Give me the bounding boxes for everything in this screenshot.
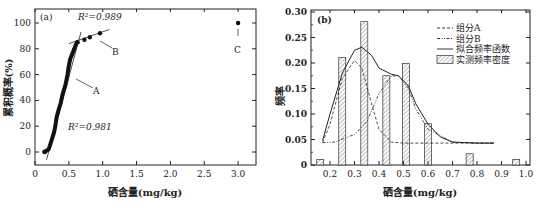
- data-point: [236, 21, 240, 25]
- data-point: [75, 40, 79, 44]
- legend-swatch-hatch: [437, 56, 453, 64]
- plot-frame-a: [35, 9, 256, 165]
- legend-label: 拟合频率函数: [456, 43, 510, 54]
- x-tick-label: 0.7: [445, 169, 460, 179]
- y-tick-label: 0.20: [285, 58, 307, 68]
- y-tick-label: 0.30: [285, 7, 307, 17]
- x-tick-label: 1.0: [96, 169, 111, 179]
- series-a-trace: [44, 42, 76, 152]
- data-point: [82, 38, 86, 42]
- x-tick-label: 0.9: [494, 169, 509, 179]
- x-tick-label: 3.0: [231, 169, 246, 179]
- axis-ticks-a: 00.51.01.52.02.53.0020406080100: [14, 9, 256, 179]
- panel-label-a: (a): [40, 12, 52, 22]
- figure-svg: 00.51.01.52.02.53.0020406080100 R²=0.989…: [0, 0, 542, 203]
- histogram-bar: [383, 76, 390, 165]
- x-tick-label: 0.5: [396, 169, 411, 179]
- data-point: [88, 35, 92, 39]
- annotations-a: R²=0.989R²=0.981ABC: [67, 12, 241, 132]
- legend-label: 组分A: [456, 22, 481, 33]
- x-axis-label-a: 硒含量(mg/kg): [108, 186, 183, 198]
- r2-label-b: R²=0.989: [77, 12, 122, 22]
- histogram-bar: [317, 159, 324, 165]
- x-tick-label: 0.6: [421, 169, 436, 179]
- y-tick-label: 40: [20, 95, 32, 105]
- y-tick-label: 0.05: [285, 135, 307, 145]
- r2-label-a: R²=0.981: [67, 122, 112, 132]
- y-tick-label: 20: [20, 121, 32, 131]
- histogram-bar: [402, 64, 409, 165]
- histogram-bar: [513, 159, 520, 165]
- x-tick-label: 0.4: [372, 169, 387, 179]
- fit-lines-a: [47, 29, 110, 159]
- data-points-a: [42, 21, 240, 154]
- panel-label-b: (b): [317, 15, 332, 25]
- label-a: A: [92, 86, 100, 96]
- histogram-bar: [425, 124, 432, 165]
- x-tick-label: 0: [32, 169, 38, 179]
- y-axis-label-b: 频率: [274, 86, 286, 106]
- y-tick-label: 100: [14, 18, 31, 28]
- arrow-a: [76, 79, 93, 88]
- panel-b: 0.20.30.40.50.60.70.80.91.000.050.100.15…: [274, 7, 533, 198]
- x-tick-label: 0.3: [347, 169, 362, 179]
- y-tick-label: 0: [25, 147, 31, 157]
- figure: 00.51.01.52.02.53.0020406080100 R²=0.989…: [0, 0, 542, 203]
- label-c: C: [234, 45, 241, 55]
- legend-b: 组分A组分B拟合频率函数实测频率密度: [437, 22, 510, 65]
- x-tick-label: 0.2: [323, 169, 337, 179]
- x-axis-label-b: 硒含量(mg/kg): [383, 186, 458, 198]
- y-tick-label: 60: [20, 70, 32, 80]
- arrow-b: [100, 41, 112, 48]
- y-tick-label: 80: [20, 44, 32, 54]
- data-point: [42, 150, 46, 154]
- x-tick-label: 0.8: [470, 169, 485, 179]
- histogram-bar: [466, 154, 473, 165]
- y-axis-label-a: 累积概率(%): [2, 59, 14, 118]
- x-tick-label: 1.5: [129, 169, 144, 179]
- panel-a: 00.51.01.52.02.53.0020406080100 R²=0.989…: [2, 9, 256, 198]
- y-tick-label: 0.15: [285, 84, 307, 94]
- x-tick-label: 2.5: [197, 169, 212, 179]
- legend-label: 组分B: [456, 33, 481, 44]
- y-tick-label: 0.10: [285, 109, 307, 119]
- x-tick-label: 1.0: [519, 169, 534, 179]
- x-tick-label: 0.5: [62, 169, 77, 179]
- x-tick-label: 2.0: [163, 169, 178, 179]
- histogram-bar: [361, 22, 368, 165]
- label-b: B: [112, 47, 119, 57]
- data-point: [98, 31, 102, 35]
- legend-label: 实测频率密度: [456, 54, 510, 65]
- y-tick-label: 0.25: [285, 33, 307, 43]
- y-tick-label: 0: [301, 160, 307, 170]
